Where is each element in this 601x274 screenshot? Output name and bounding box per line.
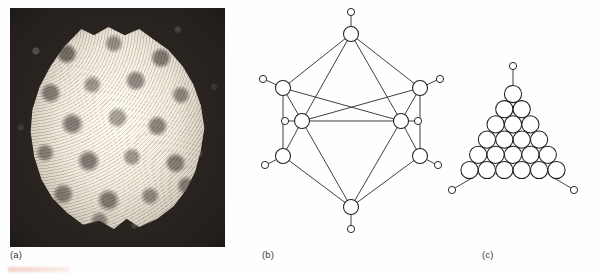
capsomere-r5-c3 — [504, 146, 521, 163]
icosahedron-outer-capsomeres — [259, 8, 443, 232]
outer-capsomere-lower-right — [434, 161, 441, 168]
edge-top-upperright — [351, 34, 420, 88]
edge-midright-bottom — [351, 121, 401, 207]
outer-capsomere-upper-left — [259, 75, 266, 82]
capsomere-r4-c4 — [531, 131, 548, 148]
panel-c-caption: (c) — [482, 249, 494, 260]
capsomere-r2-c2 — [513, 101, 530, 118]
capsomere-facet-diagram — [448, 62, 577, 193]
vertex-top — [344, 27, 359, 42]
edge-midleft-bottom — [302, 121, 351, 207]
figure-line-art — [0, 0, 601, 274]
outer-capsomere-facet-apex — [509, 62, 516, 69]
outer-capsomere-upper-right — [436, 75, 443, 82]
capsomere-r6-c4 — [513, 161, 530, 178]
icosahedron-vertex-stubs — [266, 15, 437, 226]
icosahedron-diagram — [259, 8, 443, 232]
edge-top-upperleft — [283, 34, 351, 88]
vertex-upper-left — [276, 81, 291, 96]
capsomere-r4-c2 — [496, 131, 513, 148]
capsomere-r6-c2 — [478, 161, 495, 178]
capsomere-r4-c3 — [513, 131, 530, 148]
capsomere-r6-c1 — [461, 161, 478, 178]
vertex-lower-right — [413, 149, 428, 164]
capsomere-r6-c5 — [531, 161, 548, 178]
stub-line-facet-bottom-right — [554, 178, 571, 188]
capsomere-r3-c1 — [487, 116, 504, 133]
outer-capsomere-lower-left — [261, 161, 268, 168]
outer-capsomere-facet-bottom-right — [570, 186, 577, 193]
outer-capsomere-bottom — [347, 225, 354, 232]
capsomere-r3-c2 — [504, 116, 521, 133]
capsomere-r5-c4 — [522, 146, 539, 163]
capsomere-r6-c3 — [496, 161, 513, 178]
capsomere-r1-c1 — [504, 85, 521, 102]
edge-lowerright-bottom — [351, 156, 420, 207]
edge-top-midright — [351, 34, 401, 121]
vertex-mid-left — [295, 114, 310, 129]
vertex-lower-left — [276, 149, 291, 164]
capsomere-r6-c6 — [548, 161, 565, 178]
panel-b-caption: (b) — [262, 249, 274, 260]
capsomere-r5-c2 — [487, 146, 504, 163]
capsomere-r5-c1 — [470, 146, 487, 163]
vertex-mid-right — [394, 114, 409, 129]
vertex-upper-right — [413, 81, 428, 96]
edge-top-midleft — [302, 34, 351, 121]
capsomere-r2-c1 — [496, 101, 513, 118]
edge-lowerleft-bottom — [283, 156, 351, 207]
facet-capsomeres — [461, 85, 565, 178]
stub-line-facet-bottom-left — [455, 178, 472, 188]
outer-capsomere-mid-left — [281, 117, 288, 124]
capsomere-r3-c3 — [522, 116, 539, 133]
capsomere-r5-c5 — [539, 146, 556, 163]
virus-capsid-figure: (a) — [0, 0, 601, 274]
outer-capsomere-facet-bottom-left — [448, 186, 455, 193]
capsomere-r4-c1 — [478, 131, 495, 148]
outer-capsomere-mid-right — [414, 117, 421, 124]
outer-capsomere-top — [347, 8, 354, 15]
vertex-bottom — [344, 200, 359, 215]
icosahedron-vertices — [276, 27, 428, 215]
